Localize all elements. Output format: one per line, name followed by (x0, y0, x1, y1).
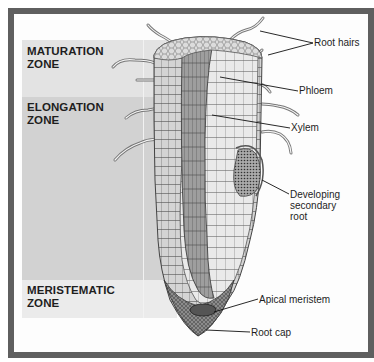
maturation-label-line1: MATURATION (27, 45, 104, 58)
meristematic-label-line1: MERISTEMATIC (27, 284, 115, 297)
meristematic-label-line2: ZONE (27, 297, 115, 310)
callout-xylem: Xylem (291, 122, 319, 133)
maturation-label-line2: ZONE (27, 58, 104, 71)
apical-meristem-shape (190, 304, 216, 316)
callout-apical-meristem: Apical meristem (259, 294, 330, 305)
elongation-label-line1: ELONGATION (27, 101, 104, 114)
secondary-root-line3: root (290, 211, 340, 222)
secondary-root-line1: Developing (290, 189, 340, 200)
elongation-label-line2: ZONE (27, 114, 104, 127)
elongation-zone-label: ELONGATION ZONE (27, 101, 104, 127)
callout-secondary-root: Developing secondary root (290, 189, 340, 222)
secondary-root-shape (234, 149, 261, 197)
callout-root-cap: Root cap (251, 327, 291, 338)
maturation-zone-label: MATURATION ZONE (27, 45, 104, 71)
callout-root-hairs: Root hairs (314, 37, 360, 48)
meristematic-zone-label: MERISTEMATIC ZONE (27, 284, 115, 310)
secondary-root-line2: secondary (290, 200, 340, 211)
callout-phloem: Phloem (299, 85, 333, 96)
